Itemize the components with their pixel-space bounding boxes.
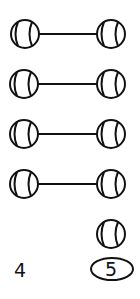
ball-icon [10,120,38,148]
ball-icon [97,20,125,48]
left-count-label: 4 [14,259,26,281]
ball-icon [97,120,125,148]
ball-icon [10,170,38,198]
ball-icon [10,70,38,98]
ball-icon [97,170,125,198]
right-count-label: 5 [105,258,117,280]
unpaired-ball-icon [97,220,125,248]
pairing-diagram: 45 [0,0,140,299]
ball-icon [11,20,39,48]
ball-icon [97,70,125,98]
